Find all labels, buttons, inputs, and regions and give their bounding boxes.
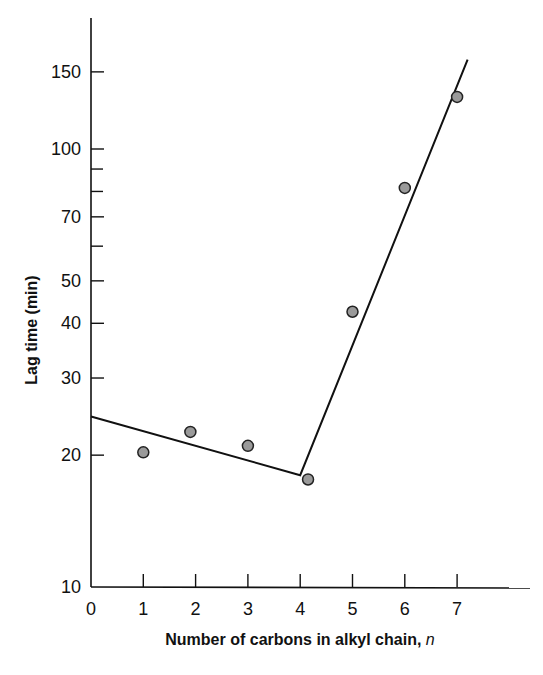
x-tick-label: 0 (86, 599, 96, 619)
x-tick-label: 1 (138, 599, 148, 619)
y-axis-title: Lag time (min) (23, 275, 40, 384)
y-tick-label: 20 (61, 445, 81, 465)
y-tick-label: 150 (51, 62, 81, 82)
x-axis-ticks: 01234567 (86, 574, 462, 619)
data-point (347, 306, 358, 317)
y-tick-label: 30 (61, 368, 81, 388)
y-tick-label: 70 (61, 207, 81, 227)
x-tick-label: 6 (400, 599, 410, 619)
x-tick-label: 2 (191, 599, 201, 619)
x-tick-label: 3 (243, 599, 253, 619)
fit-lines (91, 60, 468, 476)
y-tick-label: 50 (61, 271, 81, 291)
data-point (303, 474, 314, 485)
x-tick-label: 5 (347, 599, 357, 619)
x-tick-label: 4 (295, 599, 305, 619)
y-tick-label: 10 (61, 577, 81, 597)
data-points (138, 91, 463, 485)
axes (91, 18, 530, 588)
x-axis-title: Number of carbons in alkyl chain, n (165, 631, 435, 648)
x-axis-line (91, 587, 530, 588)
y-tick-label: 100 (51, 139, 81, 159)
fit-line (91, 60, 468, 476)
chart: 102030405070100150 01234567 Lag time (mi… (0, 0, 543, 675)
data-point (399, 182, 410, 193)
y-axis-ticks: 102030405070100150 (51, 62, 104, 597)
data-point (452, 91, 463, 102)
y-tick-label: 40 (61, 313, 81, 333)
data-point (185, 426, 196, 437)
data-point (242, 440, 253, 451)
data-point (138, 447, 149, 458)
x-tick-label: 7 (452, 599, 462, 619)
